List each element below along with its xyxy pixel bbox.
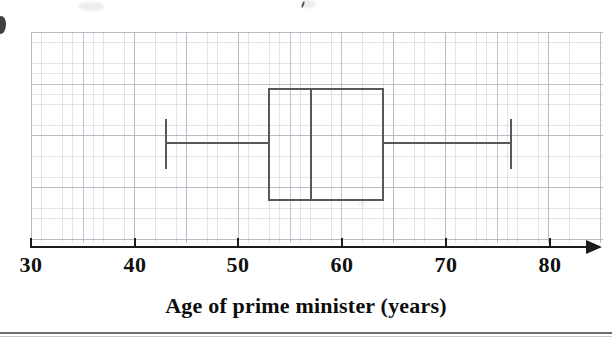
page-divider-rule — [0, 332, 612, 334]
x-axis-line — [30, 246, 595, 248]
box-plot-glyph — [31, 32, 603, 243]
page-margin-mark — [0, 16, 6, 34]
x-axis-tick-40 — [134, 238, 136, 247]
box-edge-lower-quartile — [268, 88, 270, 201]
whisker-cap-maximum — [510, 119, 512, 169]
x-axis-arrowhead — [586, 240, 602, 254]
x-axis-tick-label-50: 50 — [208, 252, 268, 278]
x-axis-tick-50 — [237, 238, 239, 247]
x-axis-tick-label-40: 40 — [105, 252, 165, 278]
whisker-cap-minimum — [165, 119, 167, 169]
x-axis-tick-60 — [341, 238, 343, 247]
x-axis-tick-30 — [30, 238, 32, 247]
page-divider-rule-shadow — [0, 336, 612, 337]
figure-page: 30 40 50 60 70 80 Age of prime minister … — [0, 0, 612, 346]
whisker-line-lower — [165, 142, 269, 144]
x-axis-tick-label-60: 60 — [312, 252, 372, 278]
x-axis-tick-label-70: 70 — [416, 252, 476, 278]
x-axis-tick-label-30: 30 — [1, 252, 61, 278]
whisker-line-upper — [382, 142, 512, 144]
median-line — [310, 88, 312, 201]
x-axis-tick-label-80: 80 — [520, 252, 580, 278]
x-axis-title: Age of prime minister (years) — [0, 293, 612, 319]
box-top — [268, 88, 384, 90]
plot-area — [31, 32, 603, 243]
scan-artifact — [78, 2, 104, 11]
box-edge-upper-quartile — [382, 88, 384, 201]
box-bottom — [268, 199, 384, 201]
x-axis-tick-80 — [549, 238, 551, 247]
x-axis-tick-70 — [445, 238, 447, 247]
